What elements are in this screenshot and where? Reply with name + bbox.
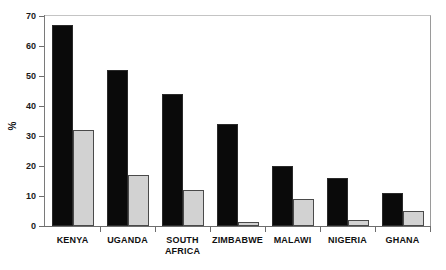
y-axis-tick-label: 50 xyxy=(10,72,36,81)
y-axis-tick-label: 30 xyxy=(10,132,36,141)
bar-nigeria-series-2 xyxy=(348,220,369,226)
y-axis-tick-label: 0 xyxy=(10,222,36,231)
y-axis-tick xyxy=(39,166,44,167)
x-axis-tick xyxy=(155,227,156,232)
y-axis-tick-label: 10 xyxy=(10,192,36,201)
x-axis-label-kenya: KENYA xyxy=(45,235,100,246)
bar-zimbabwe-series-1 xyxy=(217,124,238,226)
y-axis-tick xyxy=(39,136,44,137)
x-axis-line xyxy=(44,226,431,227)
y-axis-tick-label: 20 xyxy=(10,162,36,171)
y-axis-tick xyxy=(39,46,44,47)
bar-uganda-series-2 xyxy=(128,175,149,226)
bar-south-africa-series-2 xyxy=(183,190,204,226)
x-axis-label-uganda: UGANDA xyxy=(100,235,155,246)
y-axis-tick xyxy=(39,76,44,77)
x-axis-tick xyxy=(320,227,321,232)
bar-chart: % 010203040506070 KENYAUGANDASOUTH AFRIC… xyxy=(0,0,446,270)
x-axis-label-south-africa: SOUTH AFRICA xyxy=(155,235,210,257)
bar-nigeria-series-1 xyxy=(327,178,348,226)
x-axis-tick xyxy=(375,227,376,232)
bars-layer xyxy=(45,16,430,226)
y-axis-tick xyxy=(39,16,44,17)
x-axis-tick xyxy=(210,227,211,232)
x-axis-label-malawi: MALAWI xyxy=(265,235,320,246)
bar-malawi-series-2 xyxy=(293,199,314,226)
bar-ghana-series-1 xyxy=(382,193,403,226)
y-axis-tick xyxy=(39,226,44,227)
y-axis-tick xyxy=(39,196,44,197)
bar-malawi-series-1 xyxy=(272,166,293,226)
x-axis-tick xyxy=(430,227,431,232)
y-axis-tick-label: 70 xyxy=(10,12,36,21)
y-axis-tick-label: 40 xyxy=(10,102,36,111)
y-axis-tick-label: 60 xyxy=(10,42,36,51)
y-axis-tick xyxy=(39,106,44,107)
bar-kenya-series-1 xyxy=(52,25,73,226)
bar-south-africa-series-1 xyxy=(162,94,183,226)
x-axis-tick xyxy=(100,227,101,232)
x-axis-label-ghana: GHANA xyxy=(375,235,430,246)
x-axis-label-nigeria: NIGERIA xyxy=(320,235,375,246)
x-axis-label-zimbabwe: ZIMBABWE xyxy=(210,235,265,246)
bar-zimbabwe-series-2 xyxy=(238,222,259,227)
x-axis-tick xyxy=(265,227,266,232)
bar-uganda-series-1 xyxy=(107,70,128,226)
bar-kenya-series-2 xyxy=(73,130,94,226)
bar-ghana-series-2 xyxy=(403,211,424,226)
